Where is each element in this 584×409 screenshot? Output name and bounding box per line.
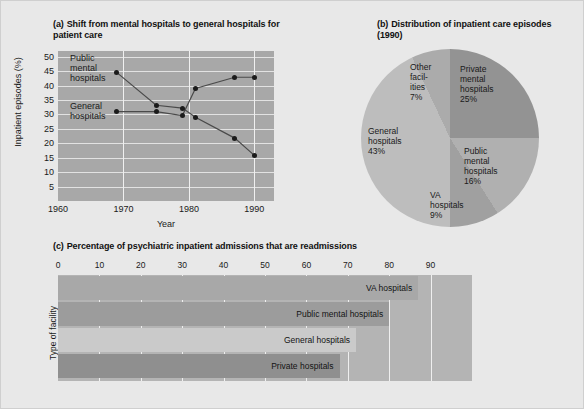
panel-a-data-point xyxy=(252,153,257,158)
panel-c-x-tick-90: 90 xyxy=(416,261,446,270)
panel-a-y-tick-40: 40 xyxy=(33,82,54,91)
panel-a-y-tick-25: 25 xyxy=(33,125,54,134)
panel-c-title: (c)Percentage of psychiatric inpatient a… xyxy=(53,241,383,252)
panel-c-x-tick-70: 70 xyxy=(333,261,363,270)
panel-a-title-text: Shift from mental hospitals to general h… xyxy=(53,19,280,40)
panel-a-x-tick-1980: 1980 xyxy=(169,205,209,214)
panel-c-tag: (c) xyxy=(53,241,64,251)
panel-c-x-tick-60: 60 xyxy=(291,261,321,270)
panel-b-slice-label-general-hospitals: Generalhospitals43% xyxy=(368,126,438,156)
panel-c-plot-area: VA hospitalsPublic mental hospitalsGener… xyxy=(58,275,472,381)
panel-a-y-axis-label: Inpatient episodes (%) xyxy=(13,42,23,162)
panel-a-y-tick-15: 15 xyxy=(33,154,54,163)
panel-c-bar-va-hospitals xyxy=(58,276,418,300)
panel-a-y-tick-45: 45 xyxy=(33,67,54,76)
panel-a-line-2 xyxy=(117,77,254,115)
panel-a-data-point xyxy=(252,75,257,80)
panel-b-slice-label-private-mental-hospitals: Privatementalhospitals25% xyxy=(460,64,530,104)
panel-a-data-point xyxy=(154,109,159,114)
panel-c-x-tick-40: 40 xyxy=(209,261,239,270)
panel-b-title-text: Distribution of inpatient care episodes … xyxy=(377,19,551,40)
panel-c-bar-label-private-hospitals: Private hospitals xyxy=(271,354,333,378)
panel-a-y-tick-30: 30 xyxy=(33,110,54,119)
panel-c-bar-label-public-mental-hospitals: Public mental hospitals xyxy=(296,302,383,326)
panel-a-x-axis-label: Year xyxy=(58,219,274,229)
panel-a-tag: (a) xyxy=(53,19,64,29)
panel-c-x-tick-30: 30 xyxy=(167,261,197,270)
panel-c-bar-label-general-hospitals: General hospitals xyxy=(284,328,350,352)
panel-a-y-tick-35: 35 xyxy=(33,96,54,105)
panel-a-x-tick-1960: 1960 xyxy=(38,205,78,214)
panel-b-slice-label-public-mental-hospitals: Publicmentalhospitals16% xyxy=(464,146,534,186)
panel-a-line-1 xyxy=(117,73,254,156)
panel-a-y-tick-5: 5 xyxy=(33,183,54,192)
panel-b-slice-label-va-hospitals: VAhospitals9% xyxy=(430,190,490,220)
panel-a-y-tick-20: 20 xyxy=(33,139,54,148)
panel-a-y-tick-10: 10 xyxy=(33,168,54,177)
panel-a-data-point xyxy=(193,86,198,91)
panel-a-series-lines xyxy=(58,51,274,201)
panel-a-y-tick-50: 50 xyxy=(33,53,54,62)
panel-c-x-tick-20: 20 xyxy=(126,261,156,270)
panel-c-x-tick-10: 10 xyxy=(84,261,114,270)
panel-b-pie-chart: (b)Distribution of inpatient care episod… xyxy=(301,1,584,251)
panel-c-title-text: Percentage of psychiatric inpatient admi… xyxy=(67,241,357,251)
panel-a-data-point xyxy=(180,106,185,111)
panel-b-tag: (b) xyxy=(377,19,388,29)
panel-a-data-point xyxy=(154,103,159,108)
panel-b-title: (b)Distribution of inpatient care episod… xyxy=(377,19,577,41)
panel-a-data-point xyxy=(232,136,237,141)
panel-a-line-chart: (a)Shift from mental hospitals to genera… xyxy=(1,1,301,233)
panel-a-data-point xyxy=(180,113,185,118)
panel-a-data-point xyxy=(193,115,198,120)
panel-c-bar-chart: (c)Percentage of psychiatric inpatient a… xyxy=(1,233,584,409)
panel-a-x-tick-1970: 1970 xyxy=(103,205,143,214)
panel-c-gridline-v xyxy=(431,275,432,381)
panel-a-title: (a)Shift from mental hospitals to genera… xyxy=(53,19,293,41)
panel-c-x-tick-0: 0 xyxy=(43,261,73,270)
panel-c-x-tick-80: 80 xyxy=(374,261,404,270)
panel-c-y-axis-label: Type of facility xyxy=(48,283,58,383)
panel-a-data-point xyxy=(232,75,237,80)
figure-panel-group: (a)Shift from mental hospitals to genera… xyxy=(0,0,584,409)
panel-a-x-tick-1990: 1990 xyxy=(234,205,274,214)
panel-c-bar-label-va-hospitals: VA hospitals xyxy=(366,276,412,300)
panel-c-x-tick-50: 50 xyxy=(250,261,280,270)
panel-b-slice-label-other-facilities: Otherfacil-ities7% xyxy=(410,62,446,102)
